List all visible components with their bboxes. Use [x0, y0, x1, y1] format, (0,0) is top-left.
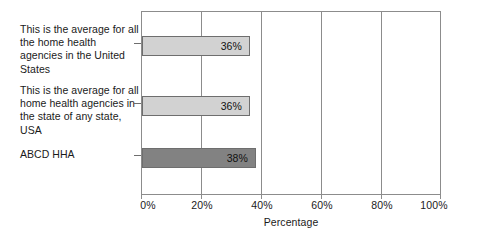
gridline-40	[261, 12, 262, 194]
x-axis-title: Percentage	[141, 216, 441, 228]
gridline-80	[381, 12, 382, 194]
x-tick-label-40: 40%	[251, 199, 272, 211]
bar-chart: This is the average for all the home hea…	[0, 0, 478, 244]
gridline-60	[321, 12, 322, 194]
x-tick-label-60: 60%	[311, 199, 332, 211]
category-label-0: This is the average for all the home hea…	[20, 23, 140, 76]
bar-value-1: 36%	[221, 100, 249, 112]
category-label-2: ABCD HHA	[20, 148, 140, 161]
bar-2: 38%	[142, 148, 256, 168]
bar-value-2: 38%	[227, 152, 255, 164]
category-label-column: This is the average for all the home hea…	[0, 0, 141, 244]
category-label-1: This is the average for all home health …	[20, 84, 140, 137]
y-tick-0	[134, 43, 141, 44]
bar-0: 36%	[142, 36, 250, 56]
y-tick-2	[134, 155, 141, 156]
y-tick-1	[134, 103, 141, 104]
x-tick-label-20: 20%	[191, 199, 212, 211]
x-tick-label-100: 100%	[420, 199, 447, 211]
x-tick-label-0: 0%	[140, 199, 155, 211]
bar-1: 36%	[142, 96, 250, 116]
bar-value-0: 36%	[221, 40, 249, 52]
plot-area: 36% 36% 38%	[141, 11, 441, 195]
x-tick-label-80: 80%	[371, 199, 392, 211]
